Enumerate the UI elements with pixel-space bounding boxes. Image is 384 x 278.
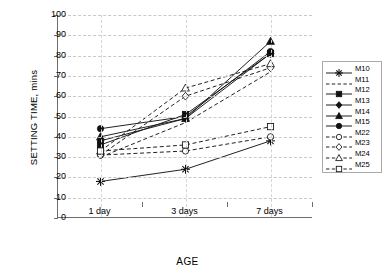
chart-root: SETTING TIME, mins AGE 01020304050607080… — [0, 0, 384, 278]
y-tick-label: 90 — [38, 29, 66, 39]
y-tick-label: 100 — [38, 9, 66, 19]
legend-item-M25[interactable]: M25 — [324, 159, 380, 170]
y-tick-label: 50 — [38, 111, 66, 121]
legend-symbol-square-icon — [324, 85, 354, 95]
y-tick-label: 10 — [38, 192, 66, 202]
y-tick-label: 80 — [38, 50, 66, 60]
x-tick-label: 1 day — [65, 206, 135, 216]
x-tick-label: 3 days — [150, 206, 220, 216]
legend-item-M24[interactable]: M24 — [324, 149, 380, 160]
legend-label: M24 — [354, 149, 370, 159]
vertical-gridline — [186, 15, 187, 217]
legend-label: M10 — [354, 64, 370, 74]
legend-symbol-open-triangle-icon — [324, 149, 354, 159]
plot-area — [57, 15, 312, 218]
legend-symbol-none-icon — [324, 75, 354, 85]
legend-label: M15 — [354, 117, 370, 127]
legend-item-M12[interactable]: M12 — [324, 85, 380, 96]
legend-label: M14 — [354, 107, 370, 117]
legend-label: M12 — [354, 85, 370, 95]
x-tick-label: 7 days — [235, 206, 305, 216]
y-tick-label: 60 — [38, 90, 66, 100]
legend-item-M10[interactable]: M10 — [324, 64, 380, 75]
chart-legend: M10M11M12M13M14M15M22M23M24M25 — [322, 61, 382, 173]
legend-symbol-star-icon — [324, 64, 354, 74]
legend-label: M11 — [354, 75, 369, 85]
legend-item-M15[interactable]: M15 — [324, 117, 380, 128]
legend-item-M13[interactable]: M13 — [324, 96, 380, 107]
legend-label: M13 — [354, 96, 370, 106]
legend-item-M22[interactable]: M22 — [324, 128, 380, 139]
vertical-gridline — [101, 15, 102, 217]
legend-item-M23[interactable]: M23 — [324, 138, 380, 149]
y-tick-label: 20 — [38, 171, 66, 181]
vertical-gridline — [271, 15, 272, 217]
legend-symbol-triangle-icon — [324, 107, 354, 117]
legend-symbol-diamond-icon — [324, 96, 354, 106]
legend-label: M25 — [354, 160, 370, 170]
y-tick-label: 70 — [38, 70, 66, 80]
x-tick-mark — [57, 202, 58, 207]
x-tick-mark — [312, 202, 313, 207]
legend-symbol-open-circle-icon — [324, 128, 354, 138]
legend-symbol-circle-icon — [324, 117, 354, 127]
legend-item-M11[interactable]: M11 — [324, 75, 380, 86]
y-tick-label: 30 — [38, 151, 66, 161]
legend-label: M23 — [354, 138, 370, 148]
x-tick-mark — [227, 202, 228, 207]
legend-label: M22 — [354, 128, 370, 138]
x-tick-mark — [142, 202, 143, 207]
y-tick-label: 0 — [38, 212, 66, 222]
y-axis-title: SETTING TIME, mins — [28, 33, 39, 203]
legend-symbol-open-diamond-icon — [324, 138, 354, 148]
legend-symbol-open-square-icon — [324, 160, 354, 170]
legend-item-M14[interactable]: M14 — [324, 106, 380, 117]
y-tick-label: 40 — [38, 131, 66, 141]
x-axis-title: AGE — [55, 256, 320, 267]
